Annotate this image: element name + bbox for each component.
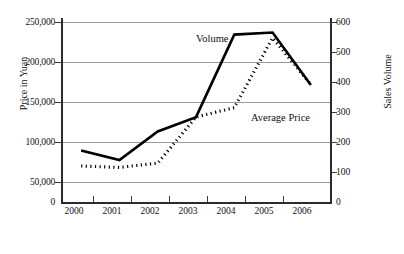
y-label-right-100: 100 [336, 167, 350, 177]
y-label-left-150000: 150,000 [26, 97, 55, 107]
y-label-right-400: 400 [336, 77, 350, 87]
tick-mark-left-100000 [55, 142, 61, 143]
series-line-volume [81, 33, 311, 161]
x-tick-mark-2 [131, 196, 132, 202]
x-tick-mark-6 [283, 196, 284, 202]
series-line-average-price-b [81, 38, 311, 168]
y-label-left-0: 0 [50, 197, 55, 207]
y-axis-left-line [61, 18, 63, 204]
x-label-2005: 2005 [255, 206, 274, 216]
x-tick-mark-5 [245, 196, 246, 202]
chart-container: Volume Average Price 0 50,000 100,000 15… [0, 0, 404, 254]
tick-mark-left-50000 [55, 182, 61, 183]
x-label-2000: 2000 [65, 206, 84, 216]
series-label-average-price: Average Price [251, 112, 310, 123]
y-axis-right-labels: 0 100 200 300 400 500 600 [336, 0, 370, 254]
x-tick-mark-3 [169, 196, 170, 202]
y-label-left-200000: 200,000 [26, 57, 55, 67]
x-label-2002: 2002 [141, 206, 160, 216]
y-label-left-50000: 50,000 [30, 177, 55, 187]
series-label-volume: Volume [196, 33, 228, 44]
x-label-2006: 2006 [293, 206, 312, 216]
x-tick-mark-4 [207, 196, 208, 202]
y-axis-right-line [330, 18, 332, 204]
x-axis-line [61, 202, 332, 204]
plot-area: Volume Average Price [62, 22, 330, 202]
y-label-right-0: 0 [336, 197, 341, 207]
y-label-right-600: 600 [336, 17, 350, 27]
y-axis-left-title: Price in Yuan [18, 39, 29, 129]
x-label-2003: 2003 [179, 206, 198, 216]
x-label-2001: 2001 [103, 206, 122, 216]
x-tick-mark-1 [93, 196, 94, 202]
y-axis-right-title: Sales Volume [382, 34, 393, 129]
y-label-left-250000: 250,000 [26, 17, 55, 27]
x-label-2004: 2004 [217, 206, 236, 216]
y-label-right-500: 500 [336, 47, 350, 57]
y-label-right-200: 200 [336, 137, 350, 147]
tick-mark-left-200000 [55, 62, 61, 63]
tick-mark-left-150000 [55, 102, 61, 103]
tick-mark-left-250000 [55, 22, 61, 23]
y-label-right-300: 300 [336, 107, 350, 117]
y-label-left-100000: 100,000 [26, 137, 55, 147]
